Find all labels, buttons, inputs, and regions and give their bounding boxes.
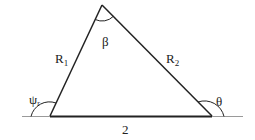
label-psi: ψr [29,92,40,108]
triangle-diagram: R1 R2 β ψr θ 2 [0,0,255,140]
side-r2 [102,5,212,116]
label-theta: θ [216,94,222,109]
label-r2: R2 [166,51,179,68]
label-beta: β [102,34,109,49]
label-base: 2 [122,122,129,137]
label-r1: R1 [55,51,68,68]
beta-arc [95,16,113,21]
